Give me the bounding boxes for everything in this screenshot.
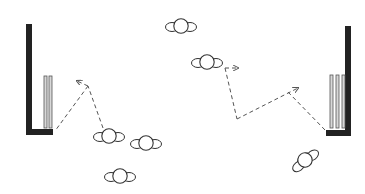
fielder-icon xyxy=(166,19,197,33)
movement-path-left-run-arrow xyxy=(77,81,88,86)
fielder-icon xyxy=(105,169,136,183)
stump-icon xyxy=(330,75,333,128)
stump-icon xyxy=(44,76,47,128)
fielder-icon xyxy=(94,129,125,143)
stump-icon xyxy=(49,76,52,128)
fielders xyxy=(94,19,322,183)
fielding-drill-diagram xyxy=(0,0,365,194)
movement-path-right-run-down xyxy=(225,68,237,119)
movement-path-left-throw-to-wicket xyxy=(55,86,88,131)
movement-path-left-run-from-fielder xyxy=(88,86,103,128)
wickets xyxy=(26,24,351,136)
backstop-vertical xyxy=(345,26,351,136)
stump-icon xyxy=(336,75,339,128)
fielder-icon xyxy=(192,55,223,69)
fielder-icon xyxy=(131,136,162,150)
backstop-vertical xyxy=(26,24,32,135)
wicket-right xyxy=(326,26,351,136)
fielder-icon xyxy=(288,145,321,175)
stump-icon xyxy=(342,75,345,128)
backstop-base xyxy=(26,129,53,135)
wicket-left xyxy=(26,24,53,135)
diagram-canvas xyxy=(0,0,365,194)
movement-paths xyxy=(55,68,325,131)
movement-path-right-throw-to-wicket xyxy=(288,92,325,130)
backstop-base xyxy=(326,130,351,136)
